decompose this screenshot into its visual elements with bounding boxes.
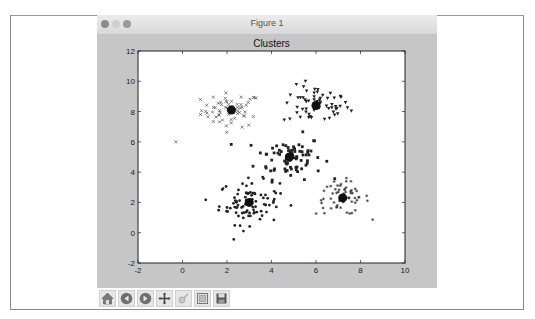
data-point	[271, 147, 274, 150]
x-tick-label: 10	[401, 266, 410, 275]
data-point	[252, 165, 255, 168]
data-point	[310, 150, 313, 153]
data-point	[295, 156, 298, 159]
data-point	[323, 189, 326, 192]
cluster-center	[245, 198, 254, 207]
back-arrow-icon	[120, 292, 133, 305]
data-point	[259, 152, 262, 155]
data-point	[322, 197, 325, 200]
window-title: Figure 1	[97, 18, 437, 28]
data-point	[354, 209, 357, 212]
data-point	[322, 207, 325, 210]
data-point	[356, 199, 359, 202]
data-point	[265, 153, 268, 156]
data-point	[226, 206, 229, 209]
data-point	[260, 210, 263, 213]
data-point	[334, 188, 337, 191]
data-point	[317, 169, 320, 172]
data-point	[279, 192, 282, 195]
data-point	[242, 230, 245, 233]
data-point	[275, 144, 278, 147]
data-point	[244, 196, 247, 199]
plot-area	[138, 51, 405, 263]
zoom-button[interactable]	[175, 290, 192, 307]
data-point	[259, 218, 262, 221]
data-point	[273, 169, 276, 172]
data-point	[333, 201, 336, 204]
save-button[interactable]	[213, 290, 230, 307]
data-point	[343, 188, 346, 191]
data-point	[222, 187, 225, 190]
floppy-disk-icon	[215, 292, 228, 305]
data-point	[358, 196, 361, 199]
data-point	[284, 170, 287, 173]
data-point	[289, 166, 292, 169]
data-point	[266, 197, 269, 200]
data-point	[249, 191, 252, 194]
data-point	[308, 154, 311, 157]
data-point	[261, 214, 264, 217]
data-point	[250, 144, 253, 147]
data-point	[270, 159, 273, 162]
home-button[interactable]	[99, 290, 116, 307]
configure-subplots-button[interactable]	[194, 290, 211, 307]
data-point	[346, 211, 349, 214]
cluster-center	[227, 106, 236, 115]
data-point	[253, 212, 256, 215]
data-point	[226, 210, 229, 213]
pan-button[interactable]	[156, 290, 173, 307]
figure-window: Figure 1 Clusters-20246810-2024681012	[97, 15, 437, 309]
data-point	[253, 192, 256, 195]
data-point	[277, 152, 280, 155]
data-point	[340, 183, 343, 186]
data-point	[354, 187, 357, 190]
data-point	[287, 146, 290, 149]
cluster-center	[312, 101, 321, 110]
data-point	[290, 149, 293, 152]
data-point	[290, 204, 293, 207]
data-point	[329, 185, 332, 188]
data-point	[255, 211, 258, 214]
data-point	[350, 212, 353, 215]
data-point	[274, 192, 277, 195]
back-button[interactable]	[118, 290, 135, 307]
data-point	[333, 177, 336, 180]
y-tick-label: 8	[131, 108, 136, 117]
scatter-plot: Clusters-20246810-2024681012	[97, 35, 437, 288]
data-point	[260, 194, 263, 197]
data-point	[365, 194, 368, 197]
figure-canvas[interactable]: Clusters-20246810-2024681012	[97, 35, 437, 288]
data-point	[330, 207, 333, 210]
data-point	[238, 199, 241, 202]
cluster-center	[285, 153, 294, 162]
forward-button[interactable]	[137, 290, 154, 307]
data-point	[355, 190, 358, 193]
data-point	[245, 211, 248, 214]
x-tick-label: 8	[358, 266, 363, 275]
data-point	[333, 180, 336, 183]
data-point	[354, 201, 357, 204]
data-point	[237, 189, 240, 192]
data-point	[236, 206, 239, 209]
data-point	[254, 205, 257, 208]
x-tick-label: 6	[314, 266, 319, 275]
data-point	[350, 189, 353, 192]
data-point	[232, 238, 235, 241]
data-point	[337, 191, 340, 194]
data-point	[229, 207, 232, 210]
data-point	[323, 212, 326, 215]
data-point	[225, 185, 228, 188]
data-point	[248, 225, 251, 228]
x-tick-label: 0	[180, 266, 185, 275]
y-tick-label: 10	[126, 77, 135, 86]
data-point	[279, 182, 282, 185]
data-point	[262, 177, 265, 180]
data-point	[242, 216, 245, 219]
data-point	[262, 196, 265, 199]
data-point	[218, 205, 221, 208]
x-tick-label: 2	[225, 266, 230, 275]
data-point	[245, 184, 248, 187]
data-point	[204, 198, 207, 201]
data-point	[306, 151, 309, 154]
data-point	[239, 224, 242, 227]
